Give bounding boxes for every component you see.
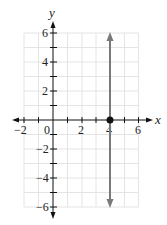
point-4-0 bbox=[107, 117, 114, 124]
y-axis-down-arrow-icon bbox=[51, 212, 56, 219]
y-axis-up-arrow-icon bbox=[51, 21, 56, 28]
x-tick-label-6: 6 bbox=[135, 123, 141, 137]
x-tick-label-0: 0 bbox=[44, 123, 50, 137]
y-tick-label-neg2: −2 bbox=[36, 142, 49, 156]
x-tick-label-neg2: −2 bbox=[14, 123, 27, 137]
y-tick-label-4: 4 bbox=[42, 55, 48, 69]
y-tick-label-6: 6 bbox=[42, 26, 48, 40]
y-tick-label-neg6: −6 bbox=[36, 200, 49, 214]
x-axis-label: x bbox=[154, 112, 161, 127]
x-tick-label-2: 2 bbox=[78, 123, 84, 137]
y-tick-label-neg4: −4 bbox=[36, 171, 49, 185]
x-axis-right-arrow-icon bbox=[146, 118, 153, 123]
coordinate-plane: y x −2 0 2 4 6 6 4 2 −2 −4 −6 bbox=[0, 0, 167, 225]
y-tick-label-2: 2 bbox=[42, 84, 48, 98]
y-axis-label: y bbox=[47, 5, 55, 20]
x-axis-left-arrow-icon bbox=[12, 118, 19, 123]
